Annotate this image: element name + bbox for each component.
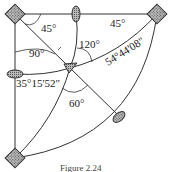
angle-arc-120	[77, 48, 92, 62]
label-arc-right: 54°44'08"	[103, 34, 147, 67]
label-angle-top-right: 45°	[110, 17, 125, 29]
spherical-triangle-diagram: 45° 45° 90° 120° 60° 35°15'52" 54°44'08"…	[0, 0, 171, 172]
angle-arc-60	[62, 85, 88, 92]
tick-mark	[58, 47, 61, 50]
angle-arc-top-left	[25, 14, 41, 25]
label-angle-top-left: 45°	[41, 22, 56, 34]
label-angle-60: 60°	[69, 97, 84, 109]
label-arc-left: 35°15'52"	[16, 77, 60, 89]
node-center-triangle	[64, 63, 77, 73]
label-angle-120: 120°	[79, 38, 100, 50]
node-top-ellipse	[72, 6, 80, 22]
node-lower-right-ellipse	[111, 109, 127, 124]
label-angle-90: 90°	[29, 47, 44, 59]
figure-caption: Figure 2.24	[60, 163, 102, 172]
